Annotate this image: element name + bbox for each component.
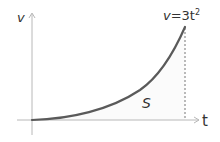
y-axis-label: v (17, 10, 25, 25)
area-label: S (142, 95, 151, 111)
velocity-time-diagram: v t v=3t2 S (0, 0, 220, 142)
curve-equation-label: v=3t2 (163, 8, 200, 23)
x-axis-label: t (202, 112, 208, 130)
